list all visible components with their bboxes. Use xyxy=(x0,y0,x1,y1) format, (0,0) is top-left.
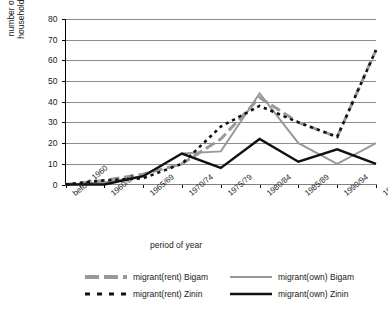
black-solid-key-icon xyxy=(229,290,273,298)
y-tick-label: 70 xyxy=(36,35,58,45)
y-axis-title: number ofhouseholds xyxy=(6,0,26,62)
y-axis-ticks xyxy=(62,20,66,186)
chart-canvas xyxy=(0,0,388,310)
gray-dashed-key-icon xyxy=(84,273,128,281)
y-tick-label: 80 xyxy=(36,14,58,24)
y-tick-label: 0 xyxy=(36,180,58,190)
legend-item-migrant-own-zinin[interactable]: migrant(own) Zinin xyxy=(229,289,380,299)
black-dotted-key-icon xyxy=(84,290,128,298)
legend-label: migrant(rent) Zinin xyxy=(133,289,202,299)
y-tick-label: 30 xyxy=(36,117,58,127)
y-axis-title-line2: households xyxy=(16,0,26,39)
x-axis-title: period of year xyxy=(150,240,202,250)
legend-item-migrant-rent-bigam[interactable]: migrant(rent) Bigam xyxy=(84,272,229,282)
y-tick-label: 20 xyxy=(36,138,58,148)
legend-item-migrant-own-bigam[interactable]: migrant(own) Bigam xyxy=(229,272,380,282)
y-tick-label: 10 xyxy=(36,159,58,169)
legend-item-migrant-rent-zinin[interactable]: migrant(rent) Zinin xyxy=(84,289,229,299)
chart-figure: number ofhouseholds 01020304050607080 be… xyxy=(0,0,388,310)
legend-label: migrant(rent) Bigam xyxy=(133,272,208,282)
y-tick-label: 60 xyxy=(36,55,58,65)
y-axis-title-line1: number of xyxy=(6,0,16,36)
gray-solid-key-icon xyxy=(229,273,273,281)
gridlines xyxy=(66,20,377,165)
y-tick-label: 50 xyxy=(36,76,58,86)
legend-label: migrant(own) Bigam xyxy=(278,272,354,282)
chart-legend: migrant(rent) Bigam migrant(own) Bigam m… xyxy=(84,268,380,302)
legend-label: migrant(own) Zinin xyxy=(278,289,348,299)
y-tick-label: 40 xyxy=(36,97,58,107)
plot-area: number ofhouseholds 01020304050607080 be… xyxy=(0,0,388,310)
